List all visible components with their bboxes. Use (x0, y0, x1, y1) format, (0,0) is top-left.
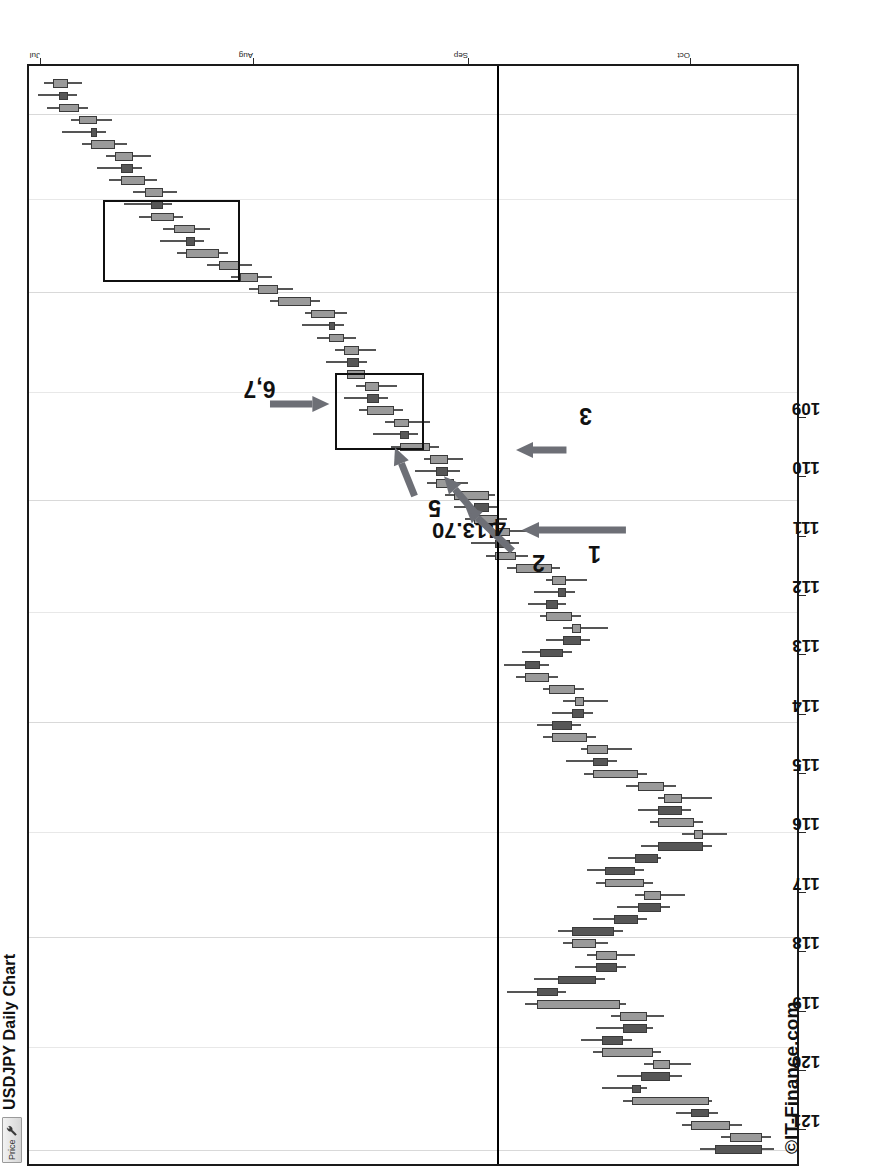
gridline-minor-2 (29, 612, 797, 613)
candle-body (344, 346, 359, 355)
price-tick-label: 112 (792, 576, 819, 596)
candle-body (258, 285, 279, 294)
chart-window: Price USDJPY Daily Chart 113.70123456,7 … (0, 0, 872, 1166)
candle-body (658, 806, 682, 815)
candle-body (563, 637, 581, 646)
candle-body (121, 164, 133, 173)
candle-wick (563, 627, 608, 629)
candle-body (552, 721, 573, 730)
price-axis: 109110111112113114115116117118119120121 (799, 64, 837, 1166)
time-axis: JulAugSepOctNovDec (27, 0, 799, 64)
annotation-label-6-7: 6,7 (243, 374, 275, 401)
candle-body (715, 1145, 763, 1154)
annotation-arrow-3 (502, 436, 580, 464)
candle-body (691, 1121, 730, 1130)
candle-body (644, 891, 662, 900)
candle-wick (302, 325, 344, 327)
annotation-arrow-1 (508, 516, 640, 544)
candle-body (53, 79, 68, 88)
candle-body (347, 358, 359, 367)
candle-body (329, 334, 344, 343)
candle-body (658, 842, 703, 851)
candle-wick (682, 833, 727, 835)
candle-body (605, 867, 635, 876)
candle-body (596, 963, 617, 972)
candle-body (596, 951, 617, 960)
candle-body (537, 1000, 620, 1009)
gridline-Jul (29, 1150, 797, 1151)
candle-body (537, 988, 558, 997)
candle-wick (534, 591, 576, 593)
price-tick-label: 118 (792, 932, 819, 952)
time-tick-label-jul: Jul (30, 51, 40, 60)
zone-upper[interactable] (103, 200, 240, 283)
candle-body (549, 685, 576, 694)
annotation-label-5: 5 (428, 494, 441, 521)
candle-body (552, 733, 588, 742)
gridline-Nov (29, 292, 797, 293)
candle-body (593, 758, 608, 767)
candle-body (653, 1060, 671, 1069)
price-tick-label: 117 (792, 873, 819, 893)
candle-body (552, 576, 567, 585)
price-tick-label: 110 (792, 457, 819, 477)
annotation-label-1: 1 (588, 540, 601, 567)
candle-body (632, 1085, 641, 1094)
candle-body (59, 104, 80, 113)
candle-body (558, 588, 567, 597)
candle-body (91, 140, 115, 149)
chart-title: USDJPY Daily Chart (1, 954, 19, 1110)
candle-body (575, 697, 584, 706)
price-tick-label: 109 (792, 398, 820, 418)
time-tick-label-oct: Oct (678, 51, 690, 60)
candle-body (638, 903, 662, 912)
annotation-label-4: 4 (493, 513, 506, 540)
candle-body (79, 116, 97, 125)
candle-body (525, 673, 549, 682)
candle-body (329, 322, 335, 331)
candle-body (730, 1133, 763, 1142)
gridline-Dec (29, 114, 797, 115)
price-tab-label: Price (8, 1139, 17, 1160)
gridline-minor-0 (29, 1047, 797, 1048)
candle-body (145, 188, 163, 197)
gridline-Aug (29, 937, 797, 938)
candle-body (694, 830, 703, 839)
candle-body (605, 879, 644, 888)
candle-body (587, 745, 608, 754)
candle-body (620, 1012, 647, 1021)
candlestick-plot[interactable]: 113.70123456,7 (27, 64, 799, 1166)
candle-body (632, 1097, 709, 1106)
candle-body (121, 176, 145, 185)
price-tick-label: 111 (793, 517, 820, 537)
time-tick (40, 58, 41, 64)
candle-body (691, 1109, 709, 1118)
price-level-line[interactable] (497, 64, 499, 1164)
chart-header: Price USDJPY Daily Chart (0, 0, 26, 1166)
candle-wick (38, 94, 77, 96)
time-tick-label-aug: Aug (239, 51, 253, 60)
time-tick (253, 58, 254, 64)
candle-body (593, 770, 638, 779)
candle-body (572, 624, 581, 633)
candle-body (558, 976, 597, 985)
candle-body (572, 939, 596, 948)
candle-body (240, 273, 258, 282)
candle-body (546, 600, 558, 609)
gridline-Sep (29, 722, 797, 723)
candle-body (278, 297, 311, 306)
candle-body (115, 152, 133, 161)
annotation-label-2: 2 (532, 549, 545, 576)
candle-body (602, 1036, 623, 1045)
candle-body (540, 649, 564, 658)
candle-body (546, 612, 573, 621)
candle-body (623, 1024, 647, 1033)
candle-body (638, 782, 665, 791)
price-tick-label: 115 (792, 754, 819, 774)
price-settings-button[interactable]: Price (2, 1117, 22, 1163)
candle-body (91, 128, 97, 137)
candle-wick (62, 131, 107, 133)
candle-body (664, 794, 682, 803)
annotation-arrow-5 (381, 434, 429, 510)
price-tick-label: 113 (792, 635, 819, 655)
